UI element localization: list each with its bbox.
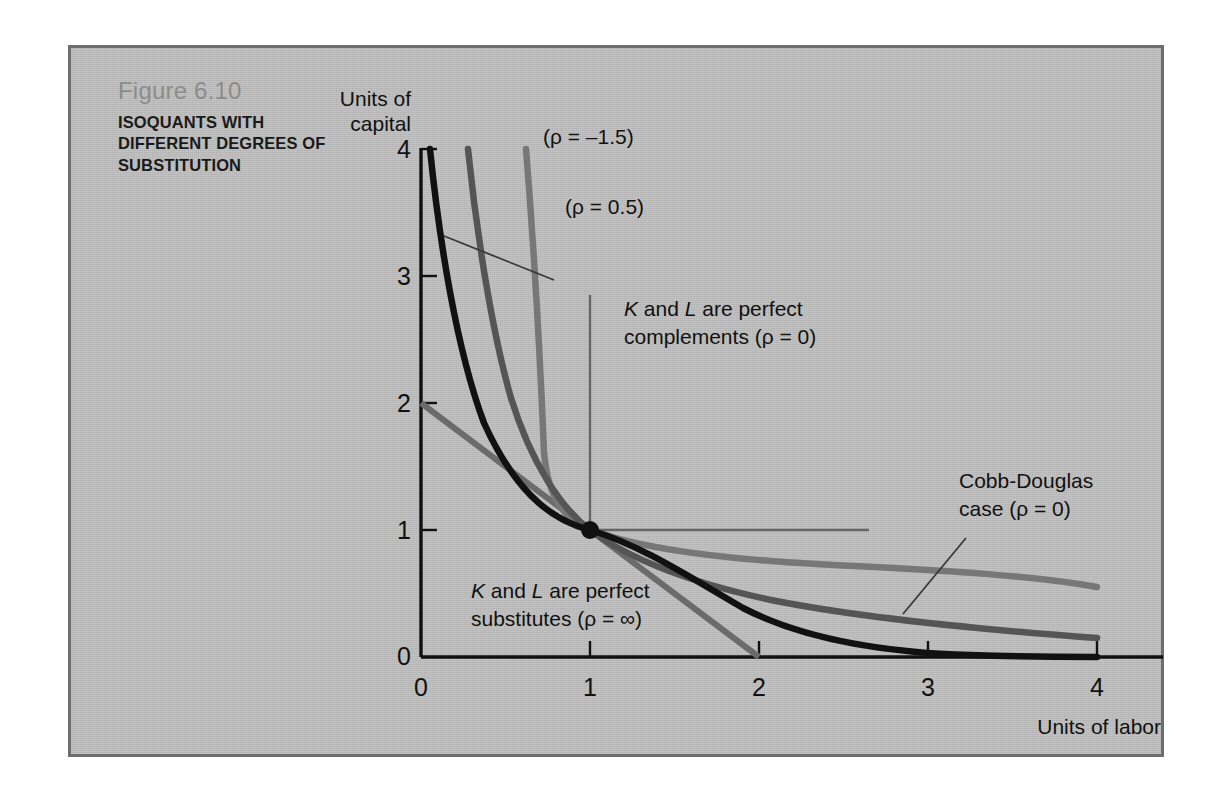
annotation-cobb-douglas-line1: Cobb-Douglas (959, 469, 1093, 492)
leader-line-cobb-douglas (903, 538, 966, 614)
figure-caption: Figure 6.10 ISOQUANTS WITH DIFFERENT DEG… (118, 76, 348, 176)
x-tick-label-3: 3 (921, 673, 935, 701)
y-axis-label-line1: Units of (340, 87, 411, 110)
page-background: Figure 6.10 ISOQUANTS WITH DIFFERENT DEG… (0, 0, 1229, 800)
annotation-perfect-substitutes-line1: K and L are perfect (471, 579, 650, 602)
annotation-rho-0point5: (ρ = 0.5) (565, 195, 644, 218)
y-tick-label-4: 4 (397, 135, 411, 163)
x-tick-label-4: 4 (1090, 673, 1104, 701)
x-tick-label-1: 1 (583, 673, 597, 701)
leader-line-rho-0point5 (444, 236, 554, 280)
figure-number: Figure 6.10 (118, 76, 348, 106)
complements-are-perfect-text: are perfect (696, 297, 802, 320)
complements-K-symbol: K (624, 297, 639, 320)
complements-and-text: and (638, 297, 685, 320)
complements-L-symbol: L (685, 297, 697, 320)
x-axis-label: Units of labor (1037, 715, 1161, 738)
y-tick-label-2: 2 (397, 389, 411, 417)
annotation-perfect-substitutes-line2: substitutes (ρ = ∞) (471, 607, 642, 630)
x-tick-label-2: 2 (752, 673, 766, 701)
figure-title: ISOQUANTS WITH DIFFERENT DEGREES OF SUBS… (118, 112, 348, 176)
substitutes-are-perfect-text: are perfect (543, 579, 649, 602)
annotation-rho-minus-1point5: (ρ = –1.5) (543, 125, 634, 148)
annotation-perfect-complements-line1: K and L are perfect (624, 297, 803, 320)
intersection-point-marker (581, 521, 599, 539)
y-tick-label-3: 3 (397, 262, 411, 290)
annotation-cobb-douglas-line2: case (ρ = 0) (959, 497, 1071, 520)
y-tick-label-1: 1 (397, 516, 411, 544)
y-axis-label-line2: capital (350, 112, 411, 135)
substitutes-and-text: and (485, 579, 532, 602)
x-origin-label: 0 (414, 673, 428, 701)
annotation-perfect-complements-line2: complements (ρ = 0) (624, 325, 816, 348)
figure-panel: Figure 6.10 ISOQUANTS WITH DIFFERENT DEG… (68, 45, 1164, 757)
substitutes-K-symbol: K (471, 579, 486, 602)
y-origin-label: 0 (397, 642, 411, 670)
substitutes-L-symbol: L (532, 579, 544, 602)
